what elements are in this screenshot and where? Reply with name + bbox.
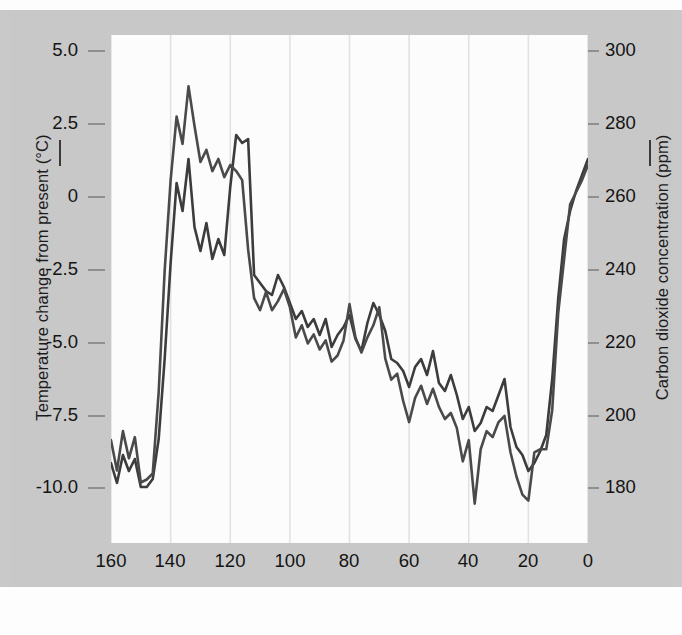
xtick-8: 0 [548,550,628,572]
ytick-left-0: 5.0 [6,39,78,61]
ytick-left-2: 0 [6,185,78,207]
ytick-left-3: -2.5 [6,258,78,280]
tickmark-left-0 [88,50,105,52]
ytick-left-1: 2.5 [6,112,78,134]
temperature-legend-line [59,140,61,166]
tickmark-left-4 [88,342,105,344]
tickmark-left-5 [88,415,105,417]
ytick-left-6: -10.0 [6,476,78,498]
ytick-right-6: 180 [605,476,675,498]
tickmark-left-2 [88,196,105,198]
ytick-left-5: -7.5 [6,404,78,426]
x-axis-title: Thousands of years ago [111,585,588,605]
ytick-left-4: -5.0 [6,331,78,353]
ytick-right-2: 260 [605,185,675,207]
tickmark-left-3 [88,269,105,271]
ytick-right-0: 300 [605,39,675,61]
tickmark-left-6 [88,487,105,489]
co2-legend-line [649,140,651,166]
gridlines [111,35,588,543]
ytick-right-3: 240 [605,258,675,280]
ytick-right-5: 200 [605,404,675,426]
tickmark-left-1 [88,123,105,125]
plot-area [111,35,588,543]
chart-canvas [111,35,588,543]
ytick-right-1: 280 [605,112,675,134]
chart-panel: Temperature change from present (°C) Car… [10,10,672,587]
ytick-right-4: 220 [605,331,675,353]
figure-root: Temperature change from present (°C) Car… [0,0,682,635]
